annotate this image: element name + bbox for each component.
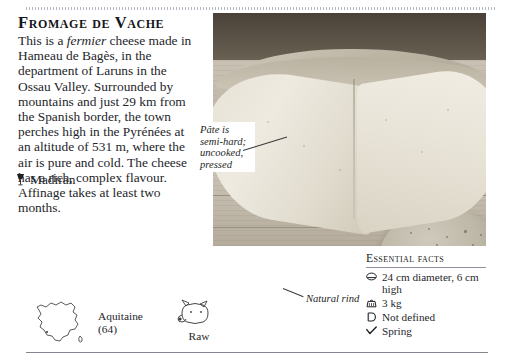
fact-text-season: Spring [382, 325, 490, 337]
callout-rind-leader-line [283, 288, 304, 297]
origin-row: Aquitaine (64) Raw [22, 296, 222, 348]
wedge-center-edge [353, 79, 355, 219]
description-after-italic: cheese made in Hameau de Bagès, in the d… [18, 33, 191, 215]
description-italic-term: fermier [67, 33, 106, 48]
region-label: Aquitaine (64) [98, 310, 143, 335]
size-icon [366, 271, 377, 281]
wine-pairing: Madiran [16, 172, 191, 187]
fact-row-season: Spring [366, 325, 490, 337]
fact-row-fat: Not defined [366, 311, 490, 323]
essential-facts-divider [366, 267, 486, 268]
fact-row-size: 24 cm diameter, 6 cm high [366, 271, 490, 296]
description-paragraph: This is a fermier cheese made in Hameau … [18, 33, 193, 215]
wine-pairing-label: Madiran [30, 172, 75, 187]
france-map-icon [30, 296, 92, 346]
cheese-encyclopedia-page: Fromage de Vache This is a fermier chees… [0, 0, 510, 364]
fact-text-fat: Not defined [382, 311, 490, 323]
region-code: (64) [98, 323, 143, 336]
fact-text-size: 24 cm diameter, 6 cm high [382, 271, 490, 296]
milk-type-label: Raw [170, 330, 228, 342]
description-before-italic: This is a [18, 33, 67, 48]
wedge-cut-face-right [357, 61, 486, 234]
fat-icon [366, 311, 377, 322]
season-icon [366, 325, 377, 335]
bottom-divider-rule [26, 352, 488, 353]
region-name: Aquitaine [98, 310, 143, 323]
milk-type-block: Raw [170, 298, 230, 348]
cow-head-icon [176, 298, 216, 328]
page-title: Fromage de Vache [18, 13, 164, 33]
wine-glass-icon [16, 173, 25, 186]
callout-pate: Pâte is semi-hard; uncooked, pressed [200, 122, 255, 172]
essential-facts-panel: Essential facts 24 cm diameter, 6 cm hig… [366, 252, 490, 339]
callout-rind: Natural rind [304, 292, 361, 306]
essential-facts-heading: Essential facts [366, 252, 490, 267]
fact-text-weight: 3 kg [382, 297, 490, 309]
weight-icon [366, 297, 377, 308]
fact-row-weight: 3 kg [366, 297, 490, 309]
top-decorative-rule [26, 7, 496, 10]
